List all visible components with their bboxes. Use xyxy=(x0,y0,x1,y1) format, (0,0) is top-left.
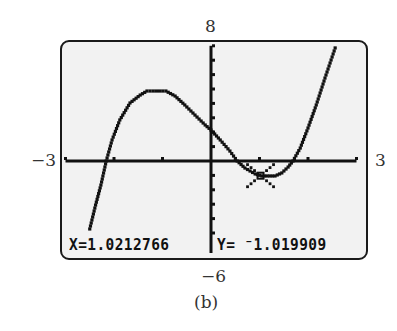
y-coordinate-readout: Y= ⁻1.019909 xyxy=(217,237,327,253)
x-coordinate-readout: X=1.0212766 xyxy=(69,237,169,253)
graph-plot xyxy=(0,0,397,331)
